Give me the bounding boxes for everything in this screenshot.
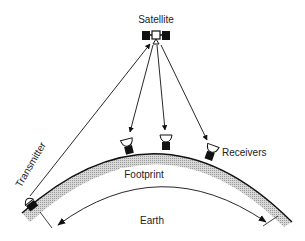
satellite-diagram: Satellite Transmitter Receivers Footprin… [0, 0, 305, 241]
signal-beams [30, 44, 207, 196]
receivers-label: Receivers [222, 147, 266, 158]
diagram-svg: Satellite Transmitter Receivers Footprin… [0, 0, 305, 241]
downlink-beam-3 [161, 45, 207, 140]
receiver-dish-icon-3 [203, 143, 219, 161]
receiver-dish-icon-2 [160, 135, 172, 150]
downlink-beam-2 [157, 45, 165, 130]
transmitter-label: Transmitter [13, 139, 48, 189]
earth-label: Earth [140, 215, 164, 226]
satellite-label: Satellite [138, 14, 174, 25]
satellite-icon [142, 31, 170, 44]
downlink-beam-1 [130, 45, 153, 132]
receiver-dish-icon-1 [120, 138, 135, 155]
footprint-label: Footprint [124, 169, 164, 180]
